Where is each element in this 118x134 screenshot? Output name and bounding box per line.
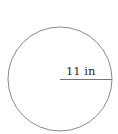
radius-label: 11 in	[66, 64, 96, 78]
circle-diagram: 11 in	[0, 0, 118, 134]
diagram-canvas: 11 in	[0, 0, 118, 134]
